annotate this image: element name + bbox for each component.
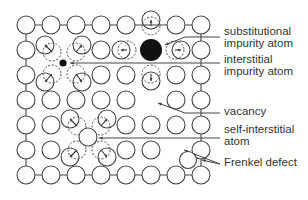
self-interstitial-atom [79, 128, 97, 146]
arrowhead-icon [158, 103, 162, 106]
lattice-atom [117, 116, 135, 134]
label-frenkel-defect: Frenkel defect [224, 156, 297, 168]
lattice-atom [42, 141, 60, 159]
interstitial-impurity-atom [59, 59, 66, 66]
lattice-atom [117, 141, 135, 159]
lattice-atom [17, 16, 35, 34]
lattice-atom [117, 166, 135, 184]
label-interstitial: interstitial [224, 53, 273, 65]
lattice-atom [17, 166, 35, 184]
lattice-atom [167, 116, 185, 134]
lattice-atom [17, 116, 35, 134]
lattice-atom [192, 166, 210, 184]
lattice-atom [142, 166, 160, 184]
label-vacancy: vacancy [224, 105, 266, 117]
frenkel-interstitial-atom [180, 152, 197, 169]
lattice-atom [167, 166, 185, 184]
label-self-interstitial: self-interstitial [224, 123, 294, 135]
lattice-atom [92, 16, 110, 34]
lattice-atom [42, 166, 60, 184]
lattice-atom [142, 141, 160, 159]
label-substitutional-2: impurity atom [224, 37, 293, 49]
lattice-atom [192, 116, 210, 134]
displacement-arrow-icon [178, 49, 181, 52]
arrowhead-icon [165, 42, 169, 45]
lattice-atom [117, 16, 135, 34]
lattice-atom [67, 16, 85, 34]
displacement-arrow-icon [121, 49, 124, 52]
arrowhead-icon [99, 136, 103, 139]
lattice-atom [167, 91, 185, 109]
lattice-atom [17, 41, 35, 59]
lattice-atom [67, 166, 85, 184]
lattice-atom [192, 41, 210, 59]
label-self-interstitial-2: atom [224, 135, 250, 147]
lattice-atom [192, 16, 210, 34]
lattice-atom [192, 66, 210, 84]
lattice-atom [192, 91, 210, 109]
lattice-atom [92, 166, 110, 184]
lattice-atom [117, 91, 135, 109]
displaced-atoms [36, 11, 190, 166]
lattice-atom [42, 116, 60, 134]
lattice-atom [142, 116, 160, 134]
lattice-atom [42, 91, 60, 109]
lattice-atom [92, 91, 110, 109]
lattice-atom [17, 66, 35, 84]
lattice-atom [67, 91, 85, 109]
displacement-arrow-icon [150, 20, 153, 23]
displacement-arrow-icon [150, 78, 153, 81]
lattice-atom [117, 66, 135, 84]
lattice-atom [167, 66, 185, 84]
label-interstitial-2: impurity atom [224, 65, 293, 77]
lattice-atom [92, 41, 110, 59]
lattice-atom [42, 16, 60, 34]
substitutional-impurity-atom [140, 39, 162, 61]
lattice-atom [92, 66, 110, 84]
arrowhead-icon [70, 61, 74, 64]
lattice-atom [167, 16, 185, 34]
label-substitutional: substitutional [224, 25, 291, 37]
lattice-atom [17, 91, 35, 109]
lattice-atom [17, 141, 35, 159]
